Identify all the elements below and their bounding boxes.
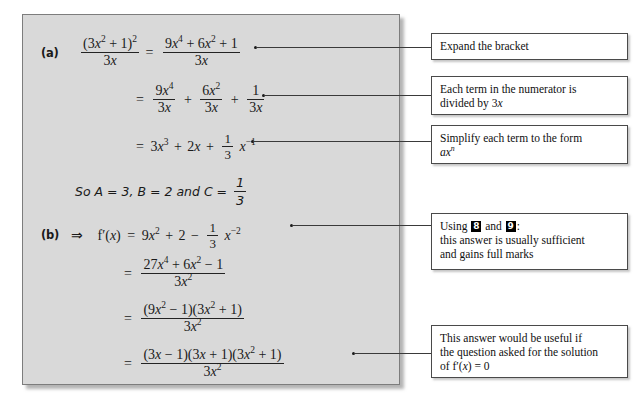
callout-line: Expand the bracket	[440, 39, 620, 53]
numerator: 27x4 + 6x2 − 1	[141, 258, 225, 274]
numerator: (9x2 − 1)(3x2 + 1)	[141, 303, 243, 319]
equation-line-a3: = 3x3 + 2x + 1 3 x−1	[136, 132, 256, 161]
callout-simplify-each-term: Simplify each term to the form axn	[431, 125, 628, 164]
derivative-notation: f′(x)	[98, 229, 121, 243]
equals-sign: =	[124, 357, 135, 371]
plus-sign: +	[229, 93, 241, 107]
numerator: (3x − 1)(3x + 1)(3x2 + 1)	[141, 348, 283, 364]
callout-line: This answer would be useful if	[440, 331, 620, 345]
fraction-term-2: 6x2 3x	[197, 84, 225, 115]
numerator: 1	[207, 221, 218, 236]
connector-line-simplify	[253, 141, 431, 142]
callout-line: divided by 3x	[440, 96, 620, 110]
equals-sign: =	[145, 46, 156, 60]
part-b-label: (b)	[41, 228, 59, 242]
statement-text: So A = 3, B = 2 and C =	[75, 184, 227, 199]
fraction-partially-factorised: (9x2 − 1)(3x2 + 1) 3x2	[138, 303, 246, 334]
part-a-label: (a)	[41, 46, 59, 60]
rule-badge-8: 8	[471, 221, 481, 232]
plus-sign: +	[172, 140, 184, 154]
equation-line-b1: ⇒ f′(x) = 9x2 + 2 − 1 3 x−2	[71, 221, 241, 250]
numerator: (3x2 + 1)2	[81, 37, 139, 53]
callout-line: Simplify each term to the form	[440, 131, 620, 145]
fraction-rhs-a1: 9x4 + 6x2 + 1 3x	[160, 37, 243, 68]
callout-line: and gains full marks	[440, 247, 620, 261]
fraction-one-third: 1 3	[231, 175, 249, 208]
connector-line-using	[292, 225, 431, 226]
denominator: 3x	[153, 100, 175, 115]
denominator: 3x2	[141, 274, 225, 289]
callout-line: the question asked for the solution	[440, 345, 620, 359]
fraction-term-3: 1 3x	[244, 84, 267, 115]
equation-line-a1: (3x2 + 1)2 3x = 9x4 + 6x2 + 1 3x	[78, 37, 243, 68]
term-linear: 2x	[187, 140, 200, 154]
fraction-one-third: 1 3	[219, 132, 236, 161]
callout-line: this answer is usually sufficient	[440, 233, 620, 247]
colon: :	[517, 220, 520, 232]
denominator: 3	[207, 236, 218, 250]
callout-line: Each term in the numerator is	[440, 82, 620, 96]
denominator: 3x	[200, 100, 222, 115]
term-constant: 2	[179, 229, 186, 243]
denominator: 3x	[81, 53, 139, 68]
fraction-one-third: 1 3	[204, 221, 221, 250]
plus-sign: +	[163, 229, 175, 243]
callout-answer-would-be-useful: This answer would be useful if the quest…	[431, 325, 628, 378]
equals-sign: =	[124, 312, 135, 326]
equation-line-b3: = (9x2 − 1)(3x2 + 1) 3x2	[124, 303, 247, 334]
connector-line-expand	[256, 47, 431, 48]
equation-line-b4: = (3x − 1)(3x + 1)(3x2 + 1) 3x2	[124, 348, 287, 379]
callout-line: of f′(x) = 0	[440, 359, 620, 373]
fraction-combined: 27x4 + 6x2 − 1 3x2	[138, 258, 228, 289]
numerator: 6x2	[200, 84, 222, 100]
numerator: 1	[222, 132, 233, 147]
worked-solution-panel: (a) (3x2 + 1)2 3x = 9x4 + 6x2 + 1 3x = 9…	[22, 14, 400, 385]
minus-sign: −	[189, 229, 201, 243]
equals-sign: =	[124, 267, 135, 281]
constants-statement: So A = 3, B = 2 and C = 1 3	[75, 175, 249, 208]
denominator: 3x	[163, 53, 240, 68]
callout-using-rules: Using 8 and 9: this answer is usually su…	[431, 213, 628, 270]
plus-sign: +	[204, 140, 216, 154]
denominator: 3	[222, 147, 233, 161]
fraction-fully-factorised: (3x − 1)(3x + 1)(3x2 + 1) 3x2	[138, 348, 286, 379]
connector-line-factorised	[354, 353, 431, 354]
numerator: 1	[247, 84, 264, 100]
term-x-inverse-square: x−2	[224, 229, 240, 243]
numerator: 9x4	[153, 84, 175, 100]
equals-sign: =	[124, 229, 138, 243]
implies-sign: ⇒	[71, 229, 94, 243]
equals-sign: =	[136, 93, 147, 107]
fraction-term-1: 9x4 3x	[150, 84, 178, 115]
denominator: 3	[234, 192, 246, 208]
plus-sign: +	[182, 93, 194, 107]
conjunction: and	[485, 220, 502, 232]
numerator: 1	[234, 175, 246, 192]
denominator: 3x2	[141, 319, 243, 334]
equation-line-b2: = 27x4 + 6x2 − 1 3x2	[124, 258, 228, 289]
using-prefix: Using	[440, 220, 467, 232]
rule-badge-9: 9	[506, 221, 516, 232]
fraction-lhs-a1: (3x2 + 1)2 3x	[78, 37, 142, 68]
numerator: 9x4 + 6x2 + 1	[163, 37, 240, 53]
term-quadratic: 9x2	[142, 229, 160, 243]
callout-line-using: Using 8 and 9:	[440, 219, 620, 233]
equation-line-a2: = 9x4 3x + 6x2 3x + 1 3x	[136, 84, 267, 115]
callout-line: axn	[440, 145, 620, 159]
connector-line-divide	[264, 95, 431, 96]
equals-sign: =	[136, 140, 147, 154]
denominator: 3x	[247, 100, 264, 115]
term-cubic: 3x3	[150, 140, 168, 154]
denominator: 3x2	[141, 364, 283, 379]
callout-divide-each-term: Each term in the numerator is divided by…	[431, 76, 628, 115]
callout-expand-the-bracket: Expand the bracket	[431, 33, 628, 60]
